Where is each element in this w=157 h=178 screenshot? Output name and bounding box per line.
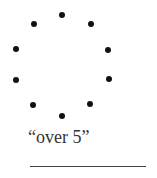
dot — [106, 76, 112, 82]
dot — [59, 113, 65, 119]
dot — [105, 47, 111, 53]
dot — [87, 101, 93, 107]
prompt-label: “over 5” — [28, 127, 89, 147]
dot — [88, 21, 94, 27]
dot — [13, 77, 19, 83]
dot — [13, 46, 19, 52]
answer-line — [30, 166, 146, 167]
dot — [59, 12, 65, 18]
dot — [30, 102, 36, 108]
dot — [31, 21, 37, 27]
